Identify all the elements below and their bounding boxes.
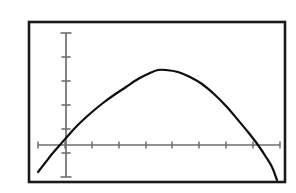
- screenshot-root: [0, 0, 296, 193]
- graph-figure: [0, 0, 296, 193]
